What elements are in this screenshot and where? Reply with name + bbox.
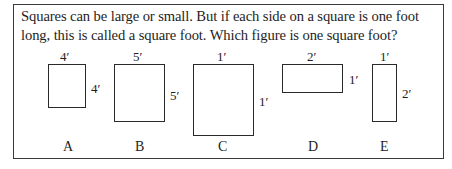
figure-d-shape[interactable] — [282, 64, 343, 93]
figure-a-letter[interactable]: A — [63, 140, 73, 154]
figure-b-shape[interactable] — [114, 64, 165, 122]
figure-c-side-label: 1′ — [259, 95, 268, 108]
figure-c-shape[interactable] — [193, 64, 254, 136]
figure-b-top-label: 5′ — [133, 50, 142, 63]
figure-e-shape[interactable] — [372, 64, 397, 122]
figure-e-top-label: 1′ — [380, 50, 389, 63]
figure-d-top-label: 2′ — [307, 50, 316, 63]
figure-d-letter[interactable]: D — [308, 140, 318, 154]
figure-c-letter[interactable]: C — [218, 140, 227, 154]
figure-b-letter[interactable]: B — [135, 140, 144, 154]
figure-a-side-label: 4′ — [91, 82, 100, 95]
figure-e-side-label: 2′ — [402, 87, 411, 100]
figure-a-top-label: 4′ — [60, 50, 69, 63]
figure-c-top-label: 1′ — [217, 50, 226, 63]
figure-a-shape[interactable] — [48, 64, 86, 108]
figure-b-side-label: 5′ — [170, 89, 179, 102]
question-text: Squares can be large or small. But if ea… — [21, 7, 441, 45]
figure-d-side-label: 1′ — [349, 73, 358, 86]
figure-e-letter[interactable]: E — [380, 140, 389, 154]
